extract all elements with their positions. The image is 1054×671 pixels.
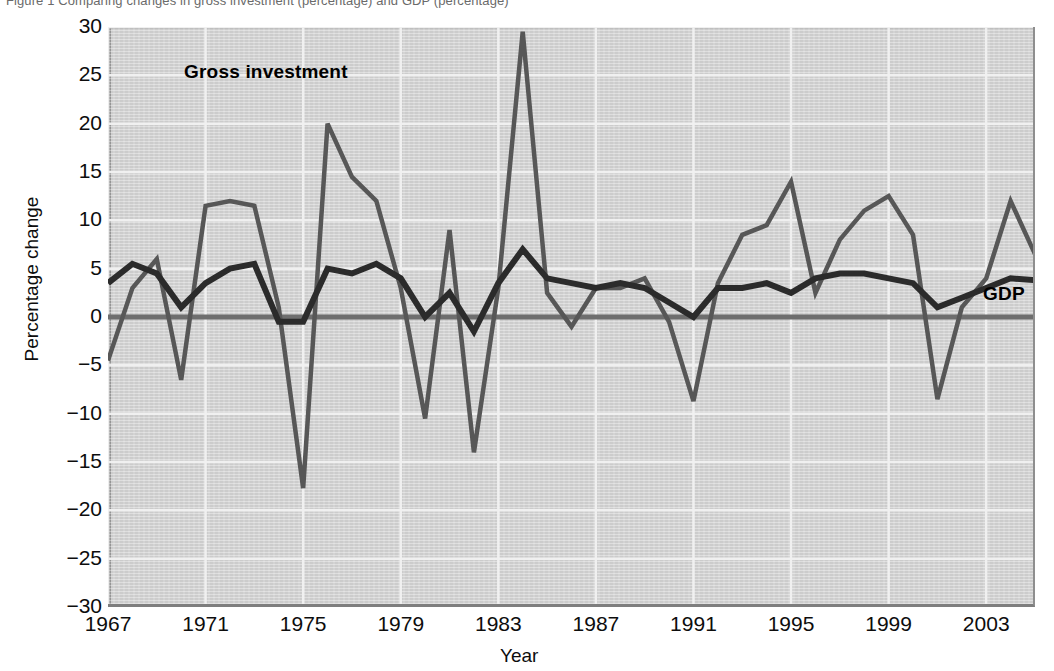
figure-caption-strip: Figure 1 Comparing changes in gross inve… (0, 0, 1054, 11)
y-tick-label: 20 (2, 111, 102, 135)
chart-svg (108, 27, 1035, 607)
y-tick-label: −25 (2, 546, 102, 570)
y-tick-label: 25 (2, 62, 102, 86)
y-tick-label: 5 (2, 256, 102, 280)
y-tick-label: 30 (2, 14, 102, 38)
x-tick-label: 2003 (926, 612, 1046, 636)
y-tick-label: 10 (2, 207, 102, 231)
x-axis-title: Year (500, 645, 538, 667)
figure-container: Figure 1 Comparing changes in gross inve… (0, 0, 1054, 671)
y-tick-label: −15 (2, 449, 102, 473)
series-label-gdp: GDP (983, 283, 1025, 305)
y-tick-label: 15 (2, 159, 102, 183)
y-tick-label: 0 (2, 304, 102, 328)
y-axis-tick-labels: 302520151050−5−10−15−20−25−30 (0, 0, 102, 671)
y-tick-label: −5 (2, 352, 102, 376)
plot-area (108, 27, 1035, 607)
data-series (108, 32, 1035, 488)
y-tick-label: −20 (2, 497, 102, 521)
y-tick-label: −10 (2, 401, 102, 425)
series-label-gross-investment: Gross investment (184, 61, 348, 83)
y-axis-title: Percentage change (21, 149, 43, 409)
